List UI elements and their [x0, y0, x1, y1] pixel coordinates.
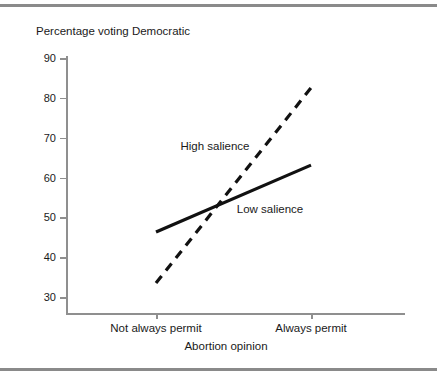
series-label-low-salience: Low salience	[237, 203, 303, 215]
series-lines-svg	[0, 0, 437, 378]
series-label-high-salience: High salience	[180, 140, 249, 152]
chart-plot-area: 90807060504030 Not always permitAlways p…	[0, 0, 437, 378]
figure-container: Percentage voting Democratic 90807060504…	[0, 0, 437, 378]
line-low-salience	[156, 165, 311, 232]
x-axis-title: Abortion opinion	[184, 340, 267, 352]
line-high-salience	[156, 88, 311, 283]
